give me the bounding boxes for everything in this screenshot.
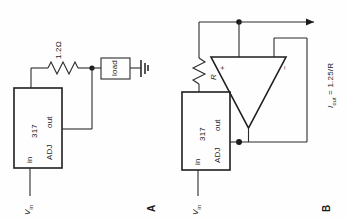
panel-b-graphics bbox=[173, 0, 346, 219]
vin-symbol-b: V bbox=[191, 209, 200, 215]
opamp-plus-sign-b: + bbox=[219, 66, 226, 70]
output-arrow-b bbox=[306, 19, 314, 26]
vin-label-a: Vin bbox=[24, 205, 34, 215]
regulator-a-part-label: 317 bbox=[31, 124, 39, 138]
vin-subscript-a: in bbox=[28, 205, 34, 210]
panel-b: + − out 317 ADJ in R Vin Iout = 1.25/R B bbox=[173, 0, 346, 219]
vin-label-b: Vin bbox=[192, 205, 202, 215]
output-equation-b: Iout = 1.25/R bbox=[327, 63, 337, 108]
regulator-a-pin-adj: ADJ bbox=[46, 144, 54, 160]
resistor-b-value: R bbox=[210, 74, 218, 80]
panel-label-b: B bbox=[322, 205, 332, 212]
iout-subscript-b: out bbox=[331, 97, 337, 105]
regulator-b-pin-out: out bbox=[214, 119, 222, 131]
vin-symbol-a: V bbox=[23, 209, 32, 215]
resistor-a-value: 1.2Ω bbox=[55, 41, 63, 59]
regulator-b-pin-in: in bbox=[194, 158, 202, 165]
panel-label-a: A bbox=[147, 205, 157, 212]
vin-subscript-b: in bbox=[196, 205, 202, 210]
iout-equation-b: = 1.25/R bbox=[326, 63, 335, 98]
resistor-1r2-a bbox=[48, 62, 78, 74]
circuit-figure: out 317 ADJ in 1.2Ω load Vin A bbox=[0, 0, 346, 219]
regulator-b-part-label: 317 bbox=[199, 127, 207, 141]
panel-a: out 317 ADJ in 1.2Ω load Vin A bbox=[0, 0, 173, 219]
regulator-a-pin-out: out bbox=[46, 116, 54, 128]
load-label-a: load bbox=[111, 60, 119, 76]
opamp-minus-sign-b: − bbox=[281, 66, 288, 70]
regulator-a-pin-in: in bbox=[26, 156, 34, 163]
resistor-R-b bbox=[193, 58, 205, 84]
panel-a-graphics bbox=[0, 0, 173, 219]
regulator-b-pin-adj: ADJ bbox=[214, 147, 222, 163]
